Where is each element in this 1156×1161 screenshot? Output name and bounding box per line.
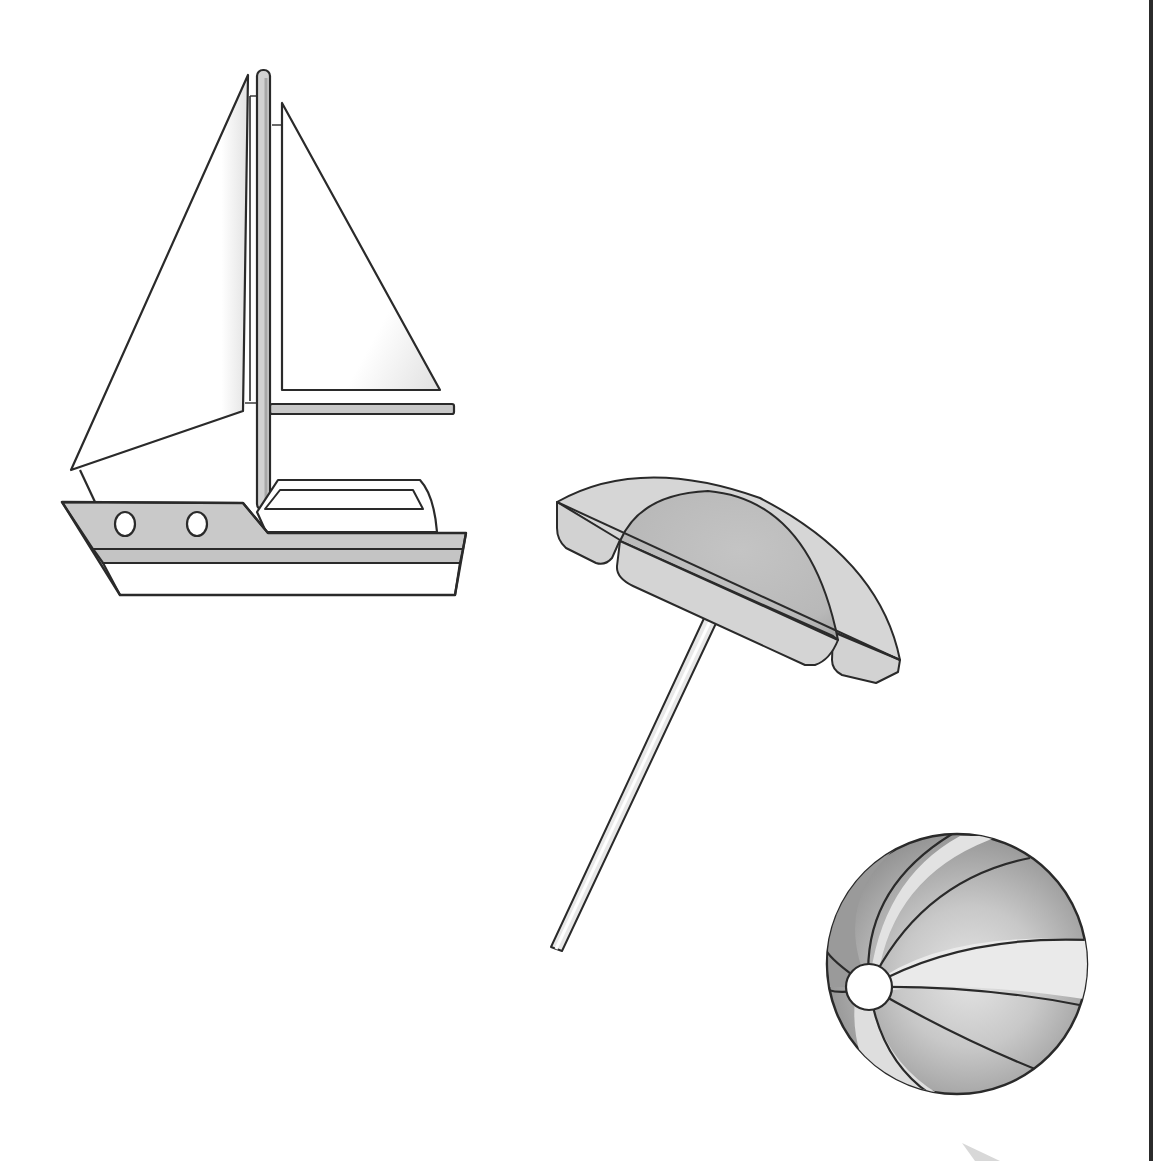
main-sail	[71, 75, 248, 470]
hull-stripe	[93, 549, 463, 563]
partial-shape-fragment	[962, 1143, 1000, 1161]
boom	[270, 404, 454, 414]
clipart-layer	[0, 0, 1156, 1161]
porthole-1	[115, 512, 135, 536]
porthole-2	[187, 512, 207, 536]
sailboat	[62, 70, 466, 595]
jib-sail	[282, 103, 440, 390]
illustration-canvas	[0, 0, 1156, 1161]
beach-ball	[826, 834, 1090, 1095]
ball-cap	[846, 964, 892, 1010]
rigging-line	[80, 470, 95, 502]
mast	[257, 70, 270, 510]
beach-umbrella	[551, 477, 900, 951]
cabin-window	[265, 490, 423, 509]
page-right-border	[1149, 0, 1153, 1161]
hull-lower	[103, 563, 460, 595]
